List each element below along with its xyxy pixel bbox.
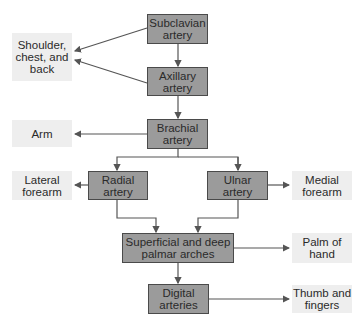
region-shoulder-chest-back: Shoulder, chest, and back bbox=[12, 33, 72, 81]
node-axillary-artery: Axillary artery bbox=[147, 67, 208, 96]
node-subclavian-artery: Subclavian artery bbox=[147, 14, 208, 44]
node-brachial-artery: Brachial artery bbox=[147, 119, 208, 149]
region-arm: Arm bbox=[12, 120, 72, 147]
region-thumb-and-fingers: Thumb and fingers bbox=[292, 285, 352, 313]
artery-flowchart: Subclavian artery Axillary artery Brachi… bbox=[0, 0, 361, 328]
node-digital-arteries: Digital arteries bbox=[148, 284, 209, 314]
region-lateral-forearm: Lateral forearm bbox=[12, 171, 72, 200]
node-radial-artery: Radial artery bbox=[88, 171, 148, 200]
node-ulnar-artery: Ulnar artery bbox=[207, 171, 268, 200]
node-palmar-arches: Superficial and deep palmar arches bbox=[122, 233, 234, 263]
region-palm-of-hand: Palm of hand bbox=[292, 233, 352, 263]
region-medial-forearm: Medial forearm bbox=[292, 171, 352, 200]
